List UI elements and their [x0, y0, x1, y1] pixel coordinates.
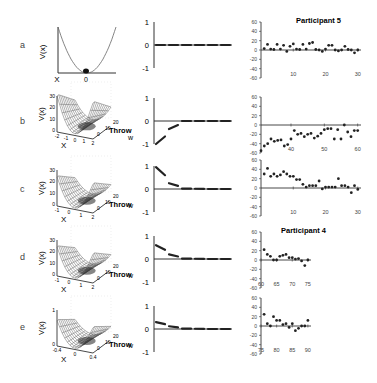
svg-text:-60: -60 [250, 150, 257, 156]
svg-text:1: 1 [80, 282, 83, 288]
svg-text:0: 0 [145, 325, 149, 334]
svg-text:-1: -1 [142, 278, 149, 287]
svg-text:-60: -60 [250, 213, 257, 219]
svg-text:V(x): V(x) [37, 107, 46, 121]
figure-canvas: V(x)X0V(x)3020100-2-101220100ThrowXV(x)3… [0, 0, 377, 383]
svg-text:X: X [61, 355, 67, 364]
svg-text:60: 60 [258, 281, 264, 287]
svg-text:-0.4: -0.4 [53, 347, 62, 353]
svg-text:30: 30 [49, 93, 55, 99]
svg-text:1: 1 [52, 307, 55, 313]
svg-text:w: w [127, 272, 134, 279]
svg-text:0: 0 [97, 131, 100, 137]
svg-text:40: 40 [251, 238, 257, 244]
svg-text:20: 20 [113, 119, 119, 125]
svg-text:90: 90 [305, 347, 311, 353]
svg-text:85: 85 [289, 347, 295, 353]
panel-b-scatter: 6040200-20-40-60405060 [250, 94, 361, 156]
panel-d-surface: V(x)3020100-101220100ThrowX [37, 226, 132, 294]
panel-a-potential: V(x)X0 [38, 27, 116, 84]
svg-text:-20: -20 [250, 332, 257, 338]
svg-text:40: 40 [251, 28, 257, 34]
svg-text:20: 20 [49, 178, 55, 184]
svg-text:20: 20 [49, 248, 55, 254]
svg-text:-2: -2 [55, 133, 60, 139]
svg-text:65: 65 [274, 281, 280, 287]
svg-text:20: 20 [251, 248, 257, 254]
svg-text:0: 0 [97, 275, 100, 281]
svg-text:0: 0 [68, 209, 71, 215]
svg-text:1: 1 [145, 232, 149, 241]
svg-text:60: 60 [251, 229, 257, 235]
svg-text:-1: -1 [142, 208, 149, 217]
svg-text:-60: -60 [250, 285, 257, 291]
svg-text:1: 1 [83, 138, 86, 144]
panel-c-scatter: 6040200-20-40-60102030 [250, 157, 361, 219]
panel-d-weights: 10-1w [127, 232, 232, 287]
participant-title: Participant 4 [281, 226, 327, 235]
svg-text:40: 40 [288, 146, 294, 152]
svg-text:0: 0 [68, 279, 71, 285]
svg-text:-40: -40 [250, 141, 257, 147]
panel-e-scatter: 6040200-20-40-6075808590 [250, 295, 311, 357]
svg-text:30: 30 [49, 167, 55, 173]
svg-text:20: 20 [322, 209, 328, 215]
svg-text:20: 20 [251, 314, 257, 320]
svg-text:10: 10 [290, 71, 296, 77]
svg-text:2: 2 [92, 140, 95, 146]
svg-text:-20: -20 [250, 56, 257, 62]
svg-text:-1: -1 [142, 140, 149, 149]
svg-text:1: 1 [80, 212, 83, 218]
svg-text:0: 0 [97, 205, 100, 211]
svg-text:40: 40 [251, 166, 257, 172]
participant-title: Participant 5 [296, 16, 341, 25]
panel-c-weights: 10-1w [127, 162, 232, 217]
ylabel-vx: V(x) [38, 44, 47, 59]
panel-e-surface: V(x)10-0.400.420100ThrowX [37, 296, 132, 364]
svg-text:20: 20 [251, 113, 257, 119]
svg-text:0.4: 0.4 [90, 354, 97, 360]
svg-text:20: 20 [113, 263, 119, 269]
svg-text:-1: -1 [142, 348, 149, 357]
svg-text:0: 0 [254, 323, 257, 329]
svg-text:-60: -60 [250, 351, 257, 357]
svg-text:V(x): V(x) [37, 181, 46, 195]
svg-text:1: 1 [145, 302, 149, 311]
svg-text:0: 0 [74, 351, 77, 357]
svg-text:2: 2 [92, 284, 95, 290]
panel-b-surface: V(x)3020100-2-101220100ThrowX [37, 82, 132, 150]
svg-text:-20: -20 [250, 194, 257, 200]
svg-text:75: 75 [305, 281, 311, 287]
svg-text:0: 0 [145, 255, 149, 264]
svg-text:75: 75 [258, 347, 264, 353]
svg-text:X: X [61, 141, 67, 150]
svg-text:-40: -40 [250, 342, 257, 348]
svg-text:w: w [127, 202, 134, 209]
svg-text:20: 20 [113, 193, 119, 199]
svg-text:-40: -40 [250, 66, 257, 72]
svg-text:10: 10 [49, 116, 55, 122]
svg-text:-1: -1 [64, 135, 69, 141]
svg-text:X: X [61, 285, 67, 294]
svg-text:X: X [61, 215, 67, 224]
svg-text:w: w [127, 342, 134, 349]
svg-text:40: 40 [251, 103, 257, 109]
svg-text:V(x): V(x) [37, 321, 46, 335]
svg-text:50: 50 [321, 146, 327, 152]
svg-text:0: 0 [97, 345, 100, 351]
svg-text:0: 0 [145, 185, 149, 194]
svg-text:0: 0 [254, 257, 257, 263]
svg-text:-20: -20 [250, 131, 257, 137]
svg-text:-60: -60 [250, 75, 257, 81]
svg-text:80: 80 [274, 347, 280, 353]
panel-a-scatter: 6040200-20-40-60102030Participant 5 [250, 16, 361, 81]
svg-text:30: 30 [49, 237, 55, 243]
svg-text:2: 2 [92, 214, 95, 220]
svg-text:X: X [54, 75, 60, 84]
svg-text:-1: -1 [55, 277, 60, 283]
svg-text:1: 1 [145, 162, 149, 171]
svg-text:70: 70 [289, 281, 295, 287]
panel-a-weights: 10-1 [142, 18, 232, 73]
svg-text:20: 20 [49, 104, 55, 110]
svg-text:-1: -1 [55, 207, 60, 213]
